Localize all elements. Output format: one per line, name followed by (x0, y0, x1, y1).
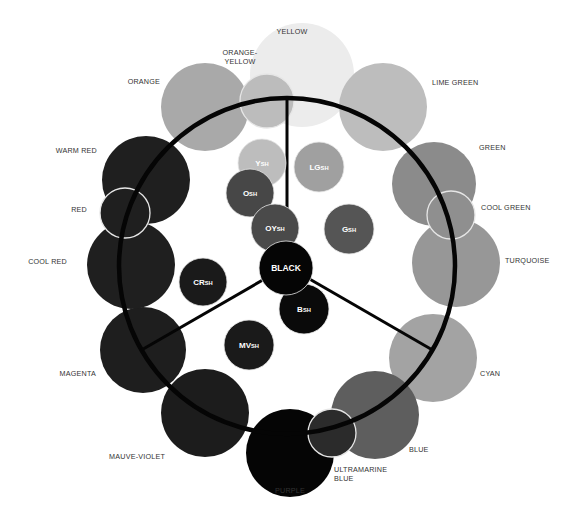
green-label: GREEN (479, 143, 506, 152)
mauve-violet-label-line: MAUVE-VIOLET (109, 452, 165, 461)
mauve-violet-label: MAUVE-VIOLET (109, 452, 165, 461)
warm-red-label: WARM RED (56, 146, 97, 155)
mvsh-label-main: MV (239, 341, 252, 350)
orange-yellow-label-line: YELLOW (224, 57, 255, 66)
black-shade: BLACK (259, 241, 313, 295)
turquoise-label-line: TURQUOISE (505, 256, 550, 265)
osh-label-sub: SH (249, 191, 257, 197)
lgsh-label: LGSH (309, 163, 328, 172)
yellow-label: YELLOW (276, 27, 307, 36)
bsh-label-sub: SH (303, 307, 311, 313)
cyan-label: CYAN (480, 369, 500, 378)
cool-green-label: COOL GREEN (481, 203, 531, 212)
lime-green-label: LIME GREEN (432, 78, 478, 87)
oysh-label-sub: SH (277, 226, 285, 232)
osh-label: OSH (243, 189, 257, 198)
blue-label-line: BLUE (409, 445, 429, 454)
orange-label-line: ORANGE (128, 77, 160, 86)
red-label: RED (71, 205, 87, 214)
mvsh-label: MVSH (239, 341, 259, 350)
black-label-main: BLACK (271, 263, 302, 273)
crsh-label: CRSH (193, 278, 213, 287)
turquoise-label: TURQUOISE (505, 256, 550, 265)
lime-green-label-line: LIME GREEN (432, 78, 478, 87)
ultramarine-blue-label: ULTRAMARINEBLUE (334, 465, 387, 483)
cyan-label-line: CYAN (480, 369, 500, 378)
cool-red-label: COOL RED (28, 257, 67, 266)
purple-label-line: PURPLE (275, 486, 305, 495)
ysh-label-sub: SH (261, 161, 269, 167)
ysh-label: YSH (255, 159, 268, 168)
crsh-shade: CRSH (179, 258, 227, 306)
green-label-line: GREEN (479, 143, 506, 152)
warm-red-label-line: WARM RED (56, 146, 97, 155)
black-label: BLACK (271, 263, 302, 273)
ultramarine-blue-label-line: BLUE (334, 474, 354, 483)
lgsh-label-main: LG (309, 163, 320, 172)
orange-yellow-label-line: ORANGE- (223, 48, 258, 57)
yellow-label-line: YELLOW (276, 27, 307, 36)
crsh-label-main: CR (193, 278, 205, 287)
colour-wheel-diagram: YSHLGSHOSHOYSHGSHCRSHMVSHBSHBLACK YELLOW… (0, 0, 574, 517)
inner-shade-circles: YSHLGSHOSHOYSHGSHCRSHMVSHBSHBLACK (179, 139, 374, 370)
gsh-shade: GSH (324, 204, 374, 254)
lgsh-label-sub: SH (321, 165, 329, 171)
ultramarine-blue-label-line: ULTRAMARINE (334, 465, 387, 474)
lime-green-circle (339, 63, 427, 151)
gsh-label-sub: SH (348, 227, 356, 233)
orange-yellow-label: ORANGE-YELLOW (223, 48, 258, 66)
cool-red-label-line: COOL RED (28, 257, 67, 266)
mvsh-label-sub: SH (251, 343, 259, 349)
red-label-line: RED (71, 205, 87, 214)
gsh-label: GSH (342, 225, 356, 234)
purple-label: PURPLE (275, 486, 305, 495)
cool-green-label-line: COOL GREEN (481, 203, 531, 212)
magenta-label: MAGENTA (60, 369, 96, 378)
blue-label: BLUE (409, 445, 429, 454)
lgsh-shade: LGSH (294, 142, 344, 192)
mvsh-shade: MVSH (224, 320, 274, 370)
magenta-label-line: MAGENTA (60, 369, 96, 378)
oysh-label: OYSH (265, 224, 285, 233)
oysh-label-main: OY (265, 224, 277, 233)
bsh-label: BSH (297, 305, 311, 314)
crsh-label-sub: SH (205, 280, 213, 286)
orange-label: ORANGE (128, 77, 160, 86)
